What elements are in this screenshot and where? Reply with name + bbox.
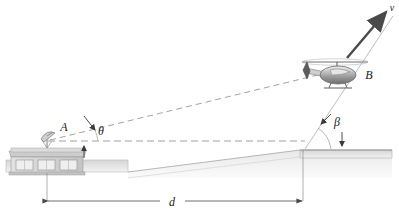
radar-dish-antenna: [41, 132, 55, 148]
velocity-label: v: [390, 2, 395, 13]
theta-label: θ: [98, 124, 104, 138]
observation-building: [9, 148, 86, 175]
ground-right-plateau: [300, 150, 392, 158]
skid-strut-left: [329, 83, 331, 88]
dish-reflector: [41, 132, 55, 142]
distance-dimension-group: d: [48, 195, 302, 209]
distance-label: d: [169, 195, 176, 209]
building-roof-cap: [11, 148, 83, 152]
beta-angle-group: β: [318, 114, 342, 149]
line-of-sight-AB: [50, 72, 330, 140]
helicopter: B: [302, 59, 373, 88]
tail-rotor-fin: [303, 62, 310, 79]
theta-angle-group: θ: [84, 116, 104, 158]
ascent-path-line: [303, 16, 393, 152]
beta-arc: [318, 128, 331, 149]
diagram-svg: θ β v: [0, 0, 399, 220]
dish-support-right: [47, 141, 52, 148]
point-a-label: A: [59, 120, 68, 134]
figure-canvas: θ β v: [0, 0, 399, 220]
theta-pointer-upper: [84, 116, 95, 130]
point-b-label: B: [365, 68, 373, 82]
beta-pointer-upper: [321, 114, 331, 124]
beta-label: β: [333, 115, 340, 129]
